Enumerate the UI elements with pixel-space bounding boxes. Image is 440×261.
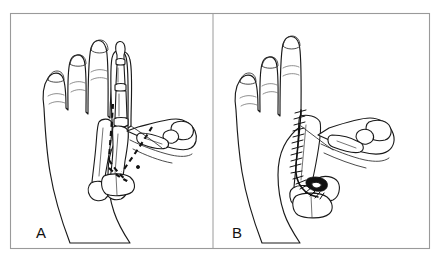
panel-b-label: B: [232, 224, 242, 241]
carpal-block-b: [293, 193, 332, 218]
panel-a-label: A: [36, 224, 46, 241]
surgical-illustration-svg: A: [0, 0, 440, 261]
carpal-block-a: [102, 174, 135, 196]
osteotomy-endpoint-dot: [136, 165, 139, 168]
figure-root: A: [0, 0, 440, 261]
